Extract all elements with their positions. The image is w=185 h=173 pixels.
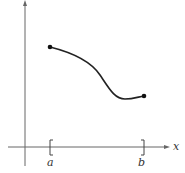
interval-label-b: b <box>138 156 145 169</box>
left-endpoint <box>48 45 53 50</box>
x-axis-arrow-icon <box>164 145 170 149</box>
x-axis-label: x <box>173 140 180 153</box>
function-curve <box>50 47 144 99</box>
y-axis <box>23 0 27 166</box>
right-endpoint <box>142 94 147 99</box>
function-diagram: x a b <box>0 0 185 173</box>
interval-label-a: a <box>47 156 54 169</box>
y-axis-arrow-icon <box>23 0 27 6</box>
x-axis <box>8 145 170 149</box>
